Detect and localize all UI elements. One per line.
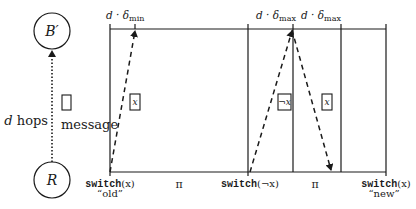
new-quote-label: “new” xyxy=(368,188,399,199)
svg-text:¬x: ¬x xyxy=(278,97,291,107)
timeline-frame xyxy=(110,24,386,176)
node-r-label: R xyxy=(46,172,58,188)
node-b-prime-label: B′ xyxy=(44,23,59,39)
svg-text:x: x xyxy=(324,97,329,107)
hops-label: d hops xyxy=(4,113,48,128)
pi-label-1: π xyxy=(175,178,182,191)
pi-label-2: π xyxy=(311,178,318,191)
message-legend-box xyxy=(62,95,71,110)
hops-label-text: hops xyxy=(13,113,48,128)
message-box-not-x: ¬x xyxy=(278,94,291,110)
message-box-x-old: x xyxy=(130,94,140,110)
hops-label-var: d xyxy=(4,113,12,128)
message-timing-diagram: B′ R d hops message d · δmin d · δmax d … xyxy=(0,0,416,209)
node-b-prime: B′ xyxy=(34,13,70,49)
delta-max-label-1: d · δmax xyxy=(256,9,296,23)
delta-max-label-2: d · δmax xyxy=(301,9,341,23)
old-quote-label: “old” xyxy=(97,188,123,199)
svg-text:x: x xyxy=(132,97,137,107)
switch-not-x-label: switch(¬x) xyxy=(221,178,279,190)
message-box-x-new: x xyxy=(322,94,332,110)
delta-min-label: d · δmin xyxy=(106,9,144,23)
node-r: R xyxy=(34,162,70,198)
